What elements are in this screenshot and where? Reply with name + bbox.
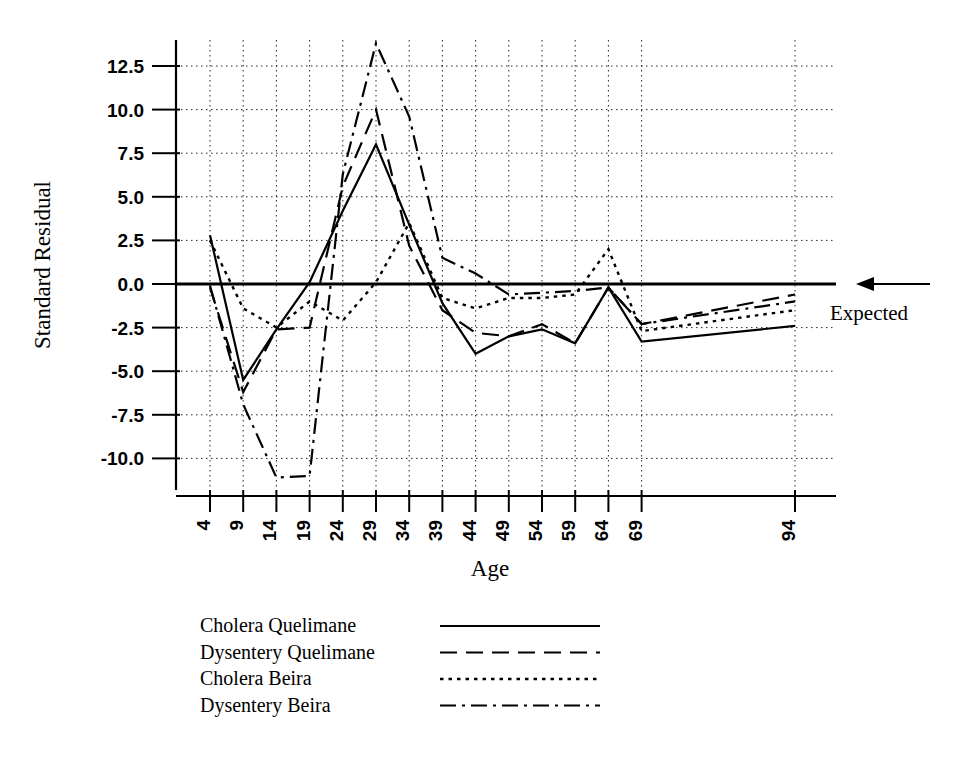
y-tick-label: -10.0 xyxy=(101,448,144,469)
x-axis-title: Age xyxy=(471,556,509,581)
x-tick-label: 59 xyxy=(558,520,579,541)
x-axis-tick-labels: 4914192429343944495459646994 xyxy=(193,520,799,542)
x-tick-label: 94 xyxy=(778,520,799,542)
x-tick-label: 4 xyxy=(193,520,214,531)
y-tick-label: 0.0 xyxy=(118,274,144,295)
x-tick-label: 49 xyxy=(492,520,513,541)
expected-arrow-head xyxy=(856,277,874,291)
data-series-line xyxy=(210,144,795,379)
x-tick-label: 69 xyxy=(625,520,646,541)
y-tick-label: 10.0 xyxy=(107,100,144,121)
y-tick-label: -5.0 xyxy=(111,361,144,382)
x-tick-label: 24 xyxy=(326,520,347,542)
y-axis-tick-labels: 12.510.07.55.02.50.0-2.5-5.0-7.5-10.0 xyxy=(101,56,145,469)
x-tick-label: 29 xyxy=(359,520,380,541)
x-tick-label: 9 xyxy=(226,520,247,531)
x-tick-label: 19 xyxy=(293,520,314,541)
expected-label: Expected xyxy=(830,301,909,325)
expected-annotation: Expected xyxy=(830,277,930,325)
x-tick-label: 39 xyxy=(425,520,446,541)
x-tick-label: 14 xyxy=(259,520,280,542)
y-tick-label: 2.5 xyxy=(118,230,145,251)
legend-item-label: Dysentery Quelimane xyxy=(200,641,375,664)
data-series-line xyxy=(210,110,795,393)
legend-item-label: Dysentery Beira xyxy=(200,694,331,717)
data-series-line xyxy=(210,43,795,477)
y-axis-title: Standard Residual xyxy=(30,181,55,349)
y-tick-label: 7.5 xyxy=(118,143,145,164)
y-tick-label: -2.5 xyxy=(111,318,144,339)
legend-item-label: Cholera Beira xyxy=(200,667,312,689)
y-tick-label: -7.5 xyxy=(111,405,144,426)
x-tick-label: 44 xyxy=(459,520,480,542)
grid-lines xyxy=(176,40,836,490)
x-tick-label: 54 xyxy=(525,520,546,542)
x-axis-ticks xyxy=(210,490,795,512)
legend-item-label: Cholera Quelimane xyxy=(200,614,356,636)
x-tick-label: 34 xyxy=(392,520,413,542)
chart-figure: 12.510.07.55.02.50.0-2.5-5.0-7.5-10.0 49… xyxy=(0,0,960,773)
data-series-layer xyxy=(210,43,795,477)
y-tick-label: 5.0 xyxy=(118,187,144,208)
x-tick-label: 64 xyxy=(591,520,612,542)
y-tick-label: 12.5 xyxy=(107,56,144,77)
chart-legend: Cholera QuelimaneDysentery QuelimaneChol… xyxy=(200,614,600,717)
standard-residual-line-chart: 12.510.07.55.02.50.0-2.5-5.0-7.5-10.0 49… xyxy=(0,0,960,773)
